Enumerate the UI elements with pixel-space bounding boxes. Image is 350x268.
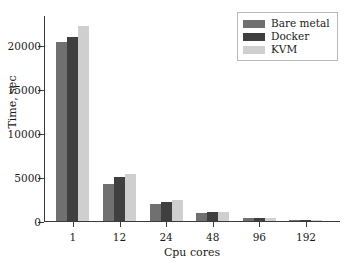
- bar-bare-metal-1: [56, 42, 67, 221]
- chart-legend: Bare metalDockerKVM: [237, 12, 338, 61]
- bar-kvm-12: [125, 174, 136, 221]
- y-tick-label: 5000: [14, 170, 41, 186]
- x-axis-spine: [44, 221, 340, 222]
- bar-docker-192: [300, 220, 311, 221]
- legend-label: Docker: [271, 30, 309, 43]
- legend-swatch-icon: [243, 33, 265, 41]
- legend-item: Docker: [243, 30, 330, 43]
- bar-docker-48: [207, 212, 218, 221]
- x-tick-label: 24: [159, 230, 172, 244]
- legend-swatch-icon: [243, 20, 265, 28]
- bar-bare-metal-12: [103, 184, 114, 221]
- bar-docker-12: [114, 177, 125, 221]
- x-tick-label: 48: [206, 230, 219, 244]
- legend-item: Bare metal: [243, 17, 330, 30]
- bar-chart-figure: 05000100001500020000 112244896192 Time, …: [0, 0, 350, 268]
- x-tick-label: 1: [70, 230, 77, 244]
- bar-docker-24: [161, 202, 172, 221]
- y-axis-spine: [44, 16, 45, 222]
- bar-bare-metal-192: [289, 220, 300, 221]
- legend-label: Bare metal: [271, 17, 330, 30]
- bar-bare-metal-24: [150, 204, 161, 221]
- bar-docker-96: [254, 218, 265, 221]
- x-axis-label: Cpu cores: [44, 246, 340, 260]
- bar-bare-metal-48: [196, 213, 207, 221]
- bar-bare-metal-96: [243, 218, 254, 221]
- x-tick-mark: [166, 222, 167, 227]
- bar-kvm-1: [78, 26, 89, 221]
- bar-kvm-96: [265, 218, 276, 221]
- x-tick-mark: [259, 222, 260, 227]
- x-tick-label: 192: [296, 230, 316, 244]
- y-axis-label: Time, sec: [6, 62, 20, 142]
- x-tick-mark: [120, 222, 121, 227]
- legend-item: KVM: [243, 43, 330, 56]
- y-tick-label: 20000: [8, 38, 41, 54]
- y-tick-label: 0: [34, 214, 41, 230]
- x-tick-label: 12: [113, 230, 126, 244]
- bar-kvm-192: [311, 220, 322, 221]
- bar-kvm-24: [172, 200, 183, 221]
- legend-swatch-icon: [243, 46, 265, 54]
- x-tick-mark: [73, 222, 74, 227]
- x-tick-mark: [213, 222, 214, 227]
- bar-kvm-48: [218, 212, 229, 221]
- x-tick-label: 96: [253, 230, 266, 244]
- legend-label: KVM: [271, 43, 297, 56]
- x-tick-mark: [306, 222, 307, 227]
- bar-docker-1: [67, 37, 78, 221]
